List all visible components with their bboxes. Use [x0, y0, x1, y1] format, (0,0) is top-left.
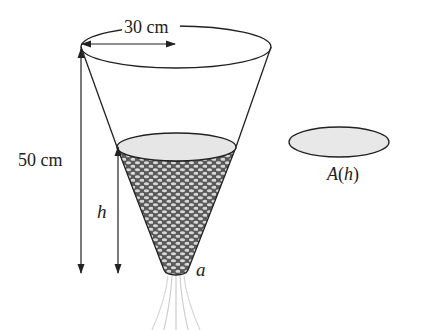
water-surface: [117, 133, 236, 161]
cross-section-area: [289, 127, 389, 157]
hole-label: a: [196, 259, 206, 280]
water-volume: [117, 147, 236, 275]
water-height-label: h: [97, 201, 107, 222]
radius-label: 30 cm: [124, 17, 169, 37]
total-height-label: 50 cm: [18, 150, 63, 170]
conical-tank-diagram: 30 cm 50 cm h a A(h): [0, 0, 430, 330]
area-function-label: A(h): [326, 164, 359, 185]
water-stream: [152, 276, 200, 330]
